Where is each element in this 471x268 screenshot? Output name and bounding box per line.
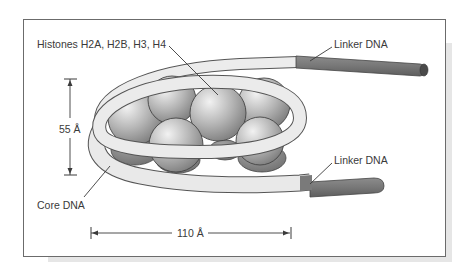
histones-label: Histones H2A, H2B, H3, H4	[37, 38, 166, 50]
core-dna-label: Core DNA	[37, 199, 85, 211]
nucleosome-diagram: Histones H2A, H2B, H3, H4 Linker DNA Lin…	[0, 0, 471, 268]
linker-dna-top-label: Linker DNA	[334, 38, 388, 50]
core-dna-leader	[84, 166, 110, 197]
linker-dna-top	[296, 56, 426, 76]
height-label: 55 Å	[59, 123, 81, 135]
linker-dna-top-end	[420, 64, 428, 76]
linker-dna-bottom	[310, 178, 384, 197]
linker-dna-bottom-label: Linker DNA	[334, 154, 388, 166]
width-label: 110 Å	[177, 227, 204, 239]
